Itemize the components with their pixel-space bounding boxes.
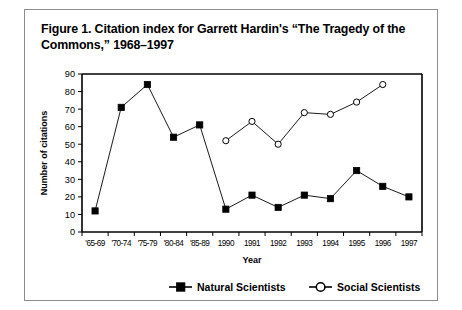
x-tick-label: '65-69 [85, 239, 105, 248]
x-axis-title: Year [242, 255, 262, 265]
legend-label: Natural Scientists [197, 281, 286, 293]
chart-legend: Natural ScientistsSocial Scientists [169, 281, 421, 293]
x-tick-label: 1995 [349, 239, 366, 248]
data-point-marker [170, 134, 176, 140]
data-point-marker [301, 192, 307, 198]
y-tick-label: 90 [65, 69, 75, 79]
figure-caption: Figure 1. Citation index for Garrett Har… [41, 21, 421, 53]
series-social-scientists [223, 81, 386, 147]
legend-item-natural-scientists: Natural Scientists [169, 281, 286, 293]
data-point-marker [249, 118, 255, 124]
data-point-marker [144, 81, 150, 87]
data-point-marker [354, 99, 360, 105]
data-point-marker [301, 110, 307, 116]
data-point-marker [275, 204, 281, 210]
x-tick-label: 1993 [296, 239, 313, 248]
x-tick-label: 1991 [244, 239, 261, 248]
x-tick-label: 1990 [218, 239, 235, 248]
x-tick-label: '80-84 [164, 239, 184, 248]
y-tick-label: 60 [65, 122, 75, 132]
y-axis-title: Number of citations [39, 111, 49, 196]
x-tick-label: 1994 [322, 239, 339, 248]
data-point-marker [223, 206, 229, 212]
x-tick-label: 1997 [401, 239, 418, 248]
x-axis: '65-69'70-74'75-79'80-84'85-891990199119… [82, 232, 422, 248]
series-layer [92, 81, 412, 214]
y-tick-label: 10 [65, 210, 75, 220]
y-axis: 0102030405060708090 [65, 69, 82, 237]
plot-frame [82, 74, 422, 232]
y-tick-label: 50 [65, 140, 75, 150]
y-tick-label: 30 [65, 175, 75, 185]
x-tick-label: 1996 [375, 239, 392, 248]
data-point-marker [406, 194, 412, 200]
y-tick-label: 70 [65, 105, 75, 115]
y-tick-label: 0 [70, 227, 75, 237]
data-point-marker [327, 196, 333, 202]
x-tick-label: 1992 [270, 239, 287, 248]
data-point-marker [354, 167, 360, 173]
figure-panel: Figure 1. Citation index for Garrett Har… [24, 9, 438, 301]
x-tick-label: '70-74 [111, 239, 131, 248]
legend-marker-open-circle [316, 283, 325, 292]
data-point-marker [249, 192, 255, 198]
legend-item-social-scientists: Social Scientists [309, 281, 421, 293]
data-point-marker [327, 111, 333, 117]
chart-svg: 0102030405060708090 '65-69'70-74'75-79'8… [25, 66, 439, 298]
x-tick-label: '85-89 [190, 239, 210, 248]
y-tick-label: 80 [65, 87, 75, 97]
data-point-marker [223, 138, 229, 144]
data-point-marker [92, 208, 98, 214]
data-point-marker [275, 141, 281, 147]
legend-marker-filled-square [177, 283, 185, 291]
legend-label: Social Scientists [337, 281, 421, 293]
y-tick-label: 40 [65, 157, 75, 167]
x-tick-label: '75-79 [138, 239, 158, 248]
data-point-marker [380, 183, 386, 189]
data-point-marker [118, 104, 124, 110]
y-tick-label: 20 [65, 192, 75, 202]
citation-index-chart: 0102030405060708090 '65-69'70-74'75-79'8… [25, 66, 439, 298]
series-natural-scientists [92, 81, 412, 214]
data-point-marker [380, 81, 386, 87]
data-point-marker [197, 122, 203, 128]
